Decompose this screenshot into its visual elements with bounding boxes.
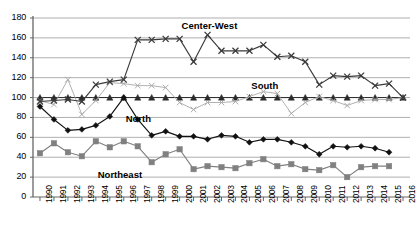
- data-point-marker: [191, 133, 197, 139]
- x-axis-tick-label: 1998: [156, 185, 166, 203]
- x-axis-tick-label: 1990: [44, 185, 54, 203]
- y-axis-tick-label: 100: [2, 92, 26, 102]
- data-point-marker: [219, 164, 224, 169]
- x-axis-tick-label: 1999: [170, 185, 180, 203]
- y-axis-tick-label: 140: [2, 52, 26, 62]
- data-point-marker: [163, 128, 169, 134]
- data-point-marker: [302, 59, 308, 65]
- data-point-marker: [316, 151, 322, 157]
- data-point-marker: [372, 145, 378, 151]
- data-point-marker: [302, 100, 308, 106]
- y-axis-tick-label: 160: [2, 32, 26, 42]
- data-point-marker: [260, 42, 266, 48]
- y-axis-tick-label: 0: [2, 191, 26, 201]
- data-point-marker: [205, 32, 211, 38]
- x-axis-tick-label: 2014: [379, 185, 389, 203]
- x-axis-tick-label: 2000: [184, 185, 194, 203]
- series-brazil: [37, 94, 406, 100]
- x-axis-tick-label: 2005: [253, 185, 263, 203]
- x-axis-tick-label: 2013: [365, 185, 375, 203]
- data-point-marker: [331, 162, 336, 167]
- data-point-marker: [79, 154, 84, 159]
- data-point-marker: [191, 59, 197, 65]
- x-axis-tick-label: 1994: [100, 185, 110, 203]
- x-axis-tick-label: 2011: [337, 186, 347, 203]
- data-point-marker: [317, 167, 322, 172]
- x-axis-tick-label: 2010: [323, 185, 333, 203]
- y-axis-tick-label: 20: [2, 171, 26, 181]
- x-axis-tick-label: 2006: [267, 185, 277, 203]
- chart-container: 0204060801001201401601801990199119921993…: [0, 0, 416, 241]
- data-point-marker: [233, 133, 239, 139]
- chart-plot-area: [0, 0, 416, 241]
- data-point-marker: [177, 147, 182, 152]
- data-point-marker: [93, 123, 99, 129]
- series-label-north: North: [126, 113, 151, 124]
- x-axis-tick-label: 2009: [309, 185, 319, 203]
- data-point-marker: [303, 166, 308, 171]
- x-axis-tick-label: 2012: [351, 185, 361, 203]
- x-axis-tick-label: 1995: [114, 185, 124, 203]
- series-northeast: [37, 139, 391, 180]
- data-point-marker: [191, 166, 196, 171]
- y-axis-tick-label: 180: [2, 12, 26, 22]
- data-point-marker: [163, 152, 168, 157]
- data-point-marker: [247, 160, 252, 165]
- x-axis-tick-label: 2003: [226, 185, 236, 203]
- data-point-marker: [386, 149, 392, 155]
- data-point-marker: [358, 143, 364, 149]
- y-axis-tick-label: 80: [2, 111, 26, 121]
- data-point-marker: [288, 139, 294, 145]
- x-axis-tick-label: 2002: [212, 185, 222, 203]
- data-point-marker: [37, 151, 42, 156]
- data-point-marker: [330, 143, 336, 149]
- data-point-marker: [233, 165, 238, 170]
- x-axis-tick-label: 2007: [281, 185, 291, 203]
- x-axis-tick-label: 2008: [295, 185, 305, 203]
- data-point-marker: [79, 112, 85, 118]
- data-point-marker: [149, 159, 154, 164]
- data-point-marker: [177, 100, 183, 106]
- data-point-marker: [261, 157, 266, 162]
- x-axis-tick-label: 1991: [58, 185, 68, 203]
- data-point-marker: [344, 144, 350, 150]
- data-point-marker: [107, 145, 112, 150]
- data-point-marker: [344, 103, 350, 109]
- data-point-marker: [372, 163, 377, 168]
- x-axis-tick-label: 2016: [407, 185, 416, 203]
- data-point-marker: [358, 164, 363, 169]
- data-point-marker: [386, 163, 391, 168]
- series-center-west: [37, 32, 406, 105]
- x-axis-tick-label: 1993: [86, 185, 96, 203]
- series-label-center-west: Center-West: [182, 20, 238, 31]
- x-axis-tick-label: 2015: [393, 185, 403, 203]
- data-point-marker: [289, 111, 295, 117]
- data-point-marker: [316, 82, 322, 88]
- data-point-marker: [65, 150, 70, 155]
- x-axis-tick-label: 1997: [142, 185, 152, 203]
- x-axis-tick-label: 1992: [72, 185, 82, 203]
- data-point-marker: [344, 174, 349, 179]
- data-point-marker: [51, 141, 56, 146]
- data-point-marker: [121, 139, 126, 144]
- x-axis-tick-label: 1996: [128, 185, 138, 203]
- data-point-marker: [275, 163, 280, 168]
- x-axis-tick-label: 2004: [239, 185, 249, 203]
- data-point-marker: [135, 144, 140, 149]
- x-axis-tick-label: 2001: [198, 185, 208, 203]
- series-label-northeast: Northeast: [98, 169, 142, 180]
- y-axis-tick-label: 60: [2, 131, 26, 141]
- y-axis-tick-label: 40: [2, 151, 26, 161]
- data-point-marker: [93, 139, 98, 144]
- data-point-marker: [79, 126, 85, 132]
- data-point-marker: [177, 133, 183, 139]
- data-point-marker: [247, 139, 253, 145]
- data-point-marker: [191, 107, 197, 113]
- y-axis-tick-label: 120: [2, 72, 26, 82]
- series-label-south: South: [251, 80, 278, 91]
- data-point-marker: [302, 143, 308, 149]
- data-point-marker: [205, 163, 210, 168]
- data-point-marker: [289, 161, 294, 166]
